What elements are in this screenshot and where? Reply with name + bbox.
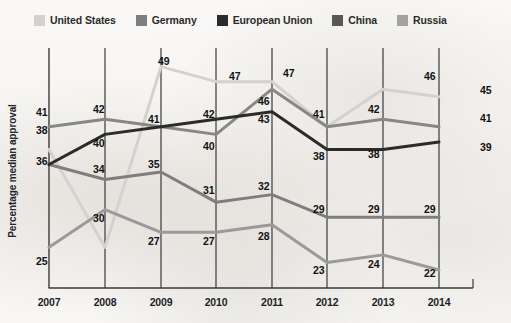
data-point-label: 27: [203, 235, 214, 247]
data-point-label: 32: [258, 180, 269, 192]
data-point-label: 29: [424, 203, 435, 215]
legend-label: Russia: [413, 14, 447, 26]
data-point-label: 23: [313, 264, 324, 276]
series-line-united-states: [49, 67, 439, 248]
data-point-label: 25: [36, 255, 47, 267]
data-point-label: 38: [313, 150, 324, 162]
data-point-label: 39: [480, 141, 491, 153]
chart-legend: United StatesGermanyEuropean UnionChinaR…: [34, 14, 467, 26]
legend-item-russia[interactable]: Russia: [397, 14, 447, 26]
data-point-label: 38: [368, 148, 379, 160]
data-point-label: 28: [258, 230, 269, 242]
data-point-label: 24: [368, 258, 379, 270]
data-point-label: 31: [203, 184, 214, 196]
data-point-label: 40: [93, 137, 104, 149]
data-point-label: 47: [283, 67, 294, 79]
legend-item-european-union[interactable]: European Union: [217, 14, 313, 26]
data-point-label: 41: [480, 112, 491, 124]
data-point-label: 45: [480, 84, 491, 96]
data-point-label: 41: [148, 113, 159, 125]
data-point-label: 46: [258, 95, 269, 107]
legend-label: Germany: [152, 14, 197, 26]
data-point-label: 30: [93, 212, 104, 224]
data-point-label: 41: [36, 106, 47, 118]
legend-label: European Union: [233, 14, 313, 26]
data-point-label: 41: [313, 108, 324, 120]
data-point-label: 47: [229, 70, 240, 82]
data-point-label: 35: [148, 158, 159, 170]
data-point-label: 22: [424, 267, 435, 279]
data-point-label: 42: [93, 103, 104, 115]
data-point-label: 42: [203, 108, 214, 120]
legend-swatch-china: [332, 15, 343, 26]
legend-item-germany[interactable]: Germany: [136, 14, 197, 26]
legend-swatch-european-union: [217, 15, 228, 26]
data-point-label: 29: [368, 203, 379, 215]
chart-root: United StatesGermanyEuropean UnionChinaR…: [0, 0, 511, 323]
series-line-russia: [49, 89, 439, 134]
legend-item-united-states[interactable]: United States: [34, 14, 116, 26]
data-point-label: 38: [36, 124, 47, 136]
data-point-label: 43: [258, 113, 269, 125]
data-point-label: 46: [424, 70, 435, 82]
data-point-label: 34: [93, 163, 104, 175]
data-point-label: 40: [203, 140, 214, 152]
legend-swatch-united-states: [34, 15, 45, 26]
legend-label: United States: [50, 14, 116, 26]
data-point-label: 29: [313, 203, 324, 215]
legend-swatch-germany: [136, 15, 147, 26]
legend-label: China: [348, 14, 377, 26]
data-point-label: 49: [158, 55, 169, 67]
data-point-label: 27: [148, 235, 159, 247]
data-point-label: 36: [36, 155, 47, 167]
legend-swatch-russia: [397, 15, 408, 26]
legend-item-china[interactable]: China: [332, 14, 377, 26]
data-point-label: 42: [368, 103, 379, 115]
